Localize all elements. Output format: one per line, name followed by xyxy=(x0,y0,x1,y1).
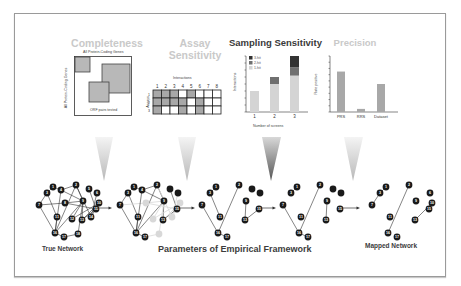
svg-text:9: 9 xyxy=(163,199,165,203)
svg-text:11: 11 xyxy=(299,215,303,219)
svg-text:17: 17 xyxy=(62,235,66,239)
svg-text:16: 16 xyxy=(386,231,390,235)
svg-text:2: 2 xyxy=(156,183,158,187)
svg-text:11: 11 xyxy=(136,215,140,219)
svg-text:2: 2 xyxy=(408,183,410,187)
svg-text:6: 6 xyxy=(96,191,98,195)
svg-text:16: 16 xyxy=(53,231,57,235)
svg-text:13: 13 xyxy=(243,218,247,222)
svg-text:1: 1 xyxy=(133,185,135,189)
svg-text:17: 17 xyxy=(143,235,147,239)
svg-text:3: 3 xyxy=(46,191,48,195)
svg-text:7: 7 xyxy=(38,203,40,207)
true-network-label: True Network xyxy=(42,245,83,252)
svg-text:1: 1 xyxy=(296,185,298,189)
svg-text:13: 13 xyxy=(324,218,328,222)
svg-text:3: 3 xyxy=(209,191,211,195)
svg-text:2: 2 xyxy=(238,183,240,187)
svg-text:18: 18 xyxy=(76,232,80,236)
svg-text:7: 7 xyxy=(282,203,284,207)
svg-text:16: 16 xyxy=(216,231,220,235)
network-node xyxy=(330,186,337,193)
arrow-icon xyxy=(180,206,195,209)
svg-text:17: 17 xyxy=(225,235,229,239)
svg-text:4: 4 xyxy=(60,188,62,192)
arrow-icon xyxy=(343,206,360,209)
svg-text:1: 1 xyxy=(215,185,217,189)
svg-text:15: 15 xyxy=(257,207,261,211)
svg-text:13: 13 xyxy=(161,218,165,222)
svg-text:2: 2 xyxy=(75,183,77,187)
svg-text:9: 9 xyxy=(415,199,417,203)
svg-text:9: 9 xyxy=(245,199,247,203)
svg-text:3: 3 xyxy=(379,191,381,195)
svg-text:11: 11 xyxy=(218,215,222,219)
svg-text:17: 17 xyxy=(395,235,399,239)
svg-text:9: 9 xyxy=(326,199,328,203)
svg-text:11: 11 xyxy=(388,215,392,219)
svg-text:9: 9 xyxy=(82,199,84,203)
svg-text:15: 15 xyxy=(338,207,342,211)
true-network: 123456789101112131415161718 xyxy=(36,182,103,241)
network-stage-2: 1234791113151617 xyxy=(117,182,184,241)
framework-label: Parameters of Empirical Framework xyxy=(158,244,312,254)
svg-text:15: 15 xyxy=(427,207,431,211)
svg-text:13: 13 xyxy=(80,218,84,222)
svg-text:1: 1 xyxy=(385,185,387,189)
svg-text:11: 11 xyxy=(55,215,59,219)
svg-text:3: 3 xyxy=(290,191,292,195)
network-stage-3: 123791113151617 xyxy=(199,182,264,241)
mapped-network-label: Mapped Network xyxy=(365,242,417,249)
svg-text:16: 16 xyxy=(297,231,301,235)
svg-text:6: 6 xyxy=(429,191,431,195)
svg-text:7: 7 xyxy=(201,203,203,207)
svg-text:14: 14 xyxy=(89,215,93,219)
svg-text:4: 4 xyxy=(141,188,143,192)
network-node xyxy=(338,190,345,197)
svg-text:7: 7 xyxy=(119,203,121,207)
svg-text:7: 7 xyxy=(371,203,373,207)
svg-text:12: 12 xyxy=(70,217,74,221)
svg-text:10: 10 xyxy=(430,201,434,205)
svg-text:17: 17 xyxy=(306,235,310,239)
arrow-icon xyxy=(261,206,276,209)
network-node xyxy=(249,186,256,193)
svg-text:5: 5 xyxy=(88,187,90,191)
network-stage-4: 123791113151617 xyxy=(280,182,345,241)
network-node xyxy=(175,190,182,197)
svg-text:3: 3 xyxy=(127,191,129,195)
network-node xyxy=(167,186,174,193)
network-node xyxy=(257,190,264,197)
svg-text:2: 2 xyxy=(319,183,321,187)
svg-text:16: 16 xyxy=(134,231,138,235)
mapped-network: 123679101113151617 xyxy=(369,182,436,241)
svg-text:8: 8 xyxy=(64,201,66,205)
svg-text:10: 10 xyxy=(97,201,101,205)
svg-text:1: 1 xyxy=(52,185,54,189)
svg-text:15: 15 xyxy=(175,207,179,211)
svg-text:13: 13 xyxy=(413,218,417,222)
